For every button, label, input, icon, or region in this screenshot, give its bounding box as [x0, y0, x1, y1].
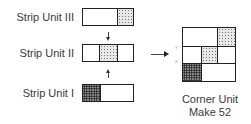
strip-unit-iii: [82, 8, 134, 26]
corner-unit-quantity: Make 52: [170, 106, 250, 119]
corner-row-iii: [183, 28, 235, 46]
arrow-right-icon: [151, 54, 165, 55]
strip-unit-iii-label: Strip Unit III: [0, 11, 74, 23]
corner-row-ii: [183, 46, 235, 64]
corner-unit-block: [182, 27, 236, 82]
mark-y: Y: [175, 45, 178, 50]
plain-segment: [83, 9, 117, 25]
dark-fabric-segment: [83, 85, 100, 101]
strip-unit-i: [82, 84, 134, 102]
strip-unit-ii: [82, 44, 134, 62]
light-fabric-segment: [99, 45, 116, 61]
arrowhead-right-icon: [164, 51, 169, 57]
plain-segment: [100, 85, 133, 101]
arrow-up-icon: [108, 72, 109, 78]
strip-unit-ii-label: Strip Unit II: [0, 47, 74, 59]
corner-unit-title: Corner Unit: [170, 93, 250, 106]
corner-row-i: [183, 63, 235, 81]
arrowhead-down-icon: [106, 37, 110, 41]
mark-x: X: [175, 59, 178, 64]
plain-segment: [83, 45, 99, 61]
plain-segment: [117, 45, 133, 61]
strip-unit-i-label: Strip Unit I: [0, 87, 74, 99]
light-fabric-segment: [117, 9, 133, 25]
